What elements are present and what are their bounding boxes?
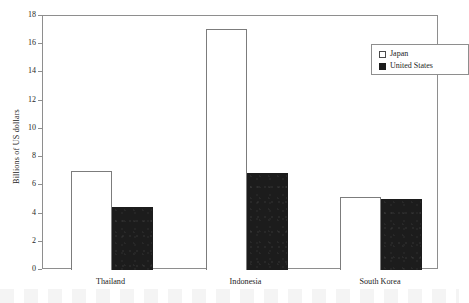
legend-item-united-states: United States — [379, 60, 468, 72]
legend-label-united-states: United States — [390, 62, 433, 70]
y-tick-label: 8 — [4, 152, 36, 160]
y-axis-title: Billions of US dollars — [12, 87, 21, 207]
scan-artifact — [0, 289, 459, 303]
y-tick-label: 14 — [4, 67, 36, 75]
y-tick-label: 4 — [4, 209, 36, 217]
legend-swatch-open-square-icon — [379, 51, 386, 58]
y-tick-label: 0 — [4, 265, 36, 273]
y-tick-label: 12 — [4, 96, 36, 104]
y-tick-label: 16 — [4, 39, 36, 47]
y-tick-label: 10 — [4, 124, 36, 132]
bar-south-korea-japan — [340, 197, 381, 270]
plot-area: Japan United States — [42, 15, 438, 269]
y-tick-label: 2 — [4, 237, 36, 245]
bar-south-korea-united-states — [381, 199, 422, 270]
x-axis-label-indonesia: Indonesia — [196, 277, 296, 286]
x-axis-label-thailand: Thailand — [61, 277, 161, 286]
y-tick-label: 6 — [4, 180, 36, 188]
bar-indonesia-united-states — [247, 173, 288, 270]
bar-indonesia-japan — [206, 29, 247, 270]
y-tick-label: 18 — [4, 11, 36, 19]
y-tick-mark — [38, 269, 42, 270]
legend-label-japan: Japan — [390, 50, 408, 58]
legend-swatch-filled-square-icon — [379, 63, 386, 70]
bar-thailand-japan — [71, 171, 112, 270]
x-axis-label-south-korea: South Korea — [330, 277, 430, 286]
bar-thailand-united-states — [112, 207, 153, 271]
chart-legend: Japan United States — [371, 44, 469, 75]
legend-item-japan: Japan — [379, 48, 468, 60]
